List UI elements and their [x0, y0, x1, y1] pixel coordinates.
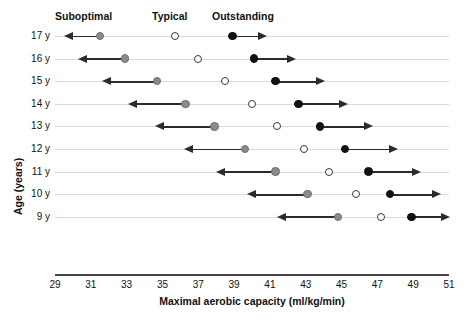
- x-tick-label: 31: [76, 279, 106, 290]
- typical-marker: [325, 168, 333, 176]
- suboptimal-arrow: [254, 194, 308, 196]
- suboptimal-arrowhead-icon: [277, 213, 286, 221]
- suboptimal-arrow: [135, 103, 185, 105]
- legend-label-typical: Typical: [152, 10, 187, 22]
- typical-marker: [377, 213, 385, 221]
- chart-canvas: Suboptimal Typical Outstanding Age (year…: [0, 0, 466, 329]
- suboptimal-arrowhead-icon: [102, 77, 111, 85]
- x-tick-label: 45: [327, 279, 357, 290]
- outstanding-arrowhead-icon: [441, 213, 450, 221]
- outstanding-arrowhead-icon: [364, 122, 373, 130]
- suboptimal-marker: [334, 213, 343, 222]
- suboptimal-marker: [121, 54, 130, 63]
- x-tick-label: 41: [255, 279, 285, 290]
- suboptimal-arrow: [85, 58, 125, 60]
- outstanding-marker: [386, 190, 395, 199]
- suboptimal-marker: [96, 32, 105, 41]
- suboptimal-arrowhead-icon: [78, 55, 87, 63]
- outstanding-marker: [294, 100, 303, 109]
- typical-marker: [171, 32, 179, 40]
- y-axis-label: 9 y: [10, 211, 50, 222]
- outstanding-arrow: [299, 103, 340, 105]
- x-tick-label: 43: [291, 279, 321, 290]
- suboptimal-marker: [303, 190, 312, 199]
- typical-marker: [248, 100, 256, 108]
- outstanding-marker: [316, 122, 325, 131]
- typical-marker: [221, 77, 229, 85]
- typical-marker: [194, 55, 202, 63]
- x-tick-label: 33: [112, 279, 142, 290]
- outstanding-arrowhead-icon: [316, 77, 325, 85]
- suboptimal-arrowhead-icon: [155, 122, 164, 130]
- suboptimal-arrowhead-icon: [247, 190, 256, 198]
- outstanding-arrow: [320, 126, 365, 128]
- row-baseline: [55, 126, 449, 127]
- row-baseline: [55, 217, 449, 218]
- outstanding-marker: [228, 32, 237, 41]
- suboptimal-arrow: [191, 149, 245, 151]
- legend-label-suboptimal: Suboptimal: [55, 10, 112, 22]
- typical-marker: [273, 122, 281, 130]
- outstanding-arrowhead-icon: [287, 55, 296, 63]
- outstanding-arrow: [390, 194, 433, 196]
- suboptimal-marker: [181, 100, 190, 109]
- y-axis-label: 11 y: [10, 166, 50, 177]
- x-tick-label: 51: [434, 279, 464, 290]
- suboptimal-arrowhead-icon: [216, 168, 225, 176]
- x-tick-label: 37: [183, 279, 213, 290]
- x-tick-label: 39: [219, 279, 249, 290]
- suboptimal-arrow: [109, 81, 158, 83]
- outstanding-arrow: [345, 149, 390, 151]
- outstanding-marker: [364, 167, 373, 176]
- y-axis-label: 10 y: [10, 188, 50, 199]
- outstanding-arrowhead-icon: [258, 32, 267, 40]
- y-axis-label: 12 y: [10, 143, 50, 154]
- x-tick-label: 49: [398, 279, 428, 290]
- outstanding-arrowhead-icon: [432, 190, 441, 198]
- outstanding-arrow: [411, 216, 442, 218]
- x-tick-label: 47: [362, 279, 392, 290]
- outstanding-marker: [271, 77, 280, 86]
- legend-label-outstanding: Outstanding: [212, 10, 274, 22]
- suboptimal-marker: [153, 77, 162, 86]
- suboptimal-arrow: [223, 171, 275, 173]
- suboptimal-arrow: [284, 216, 338, 218]
- x-tick-label: 35: [147, 279, 177, 290]
- x-axis-line: [55, 274, 449, 276]
- y-axis-label: 13 y: [10, 120, 50, 131]
- typical-marker: [300, 145, 308, 153]
- outstanding-marker: [407, 213, 416, 222]
- suboptimal-marker: [271, 167, 280, 176]
- y-axis-label: 16 y: [10, 53, 50, 64]
- outstanding-marker: [341, 145, 350, 154]
- outstanding-arrowhead-icon: [389, 145, 398, 153]
- suboptimal-arrowhead-icon: [128, 100, 137, 108]
- suboptimal-marker: [210, 122, 219, 131]
- outstanding-arrowhead-icon: [339, 100, 348, 108]
- y-axis-label: 17 y: [10, 30, 50, 41]
- suboptimal-arrowhead-icon: [64, 32, 73, 40]
- y-axis-label: 15 y: [10, 75, 50, 86]
- suboptimal-arrowhead-icon: [184, 145, 193, 153]
- outstanding-arrow: [275, 81, 316, 83]
- outstanding-marker: [250, 54, 259, 63]
- x-tick-label: 29: [40, 279, 70, 290]
- x-axis-title: Maximal aerobic capacity (ml/kg/min): [55, 295, 449, 307]
- suboptimal-marker: [241, 145, 250, 154]
- outstanding-arrowhead-icon: [412, 168, 421, 176]
- typical-marker: [352, 190, 360, 198]
- y-axis-label: 14 y: [10, 98, 50, 109]
- suboptimal-arrow: [162, 126, 214, 128]
- outstanding-arrow: [254, 58, 288, 60]
- outstanding-arrow: [368, 171, 413, 173]
